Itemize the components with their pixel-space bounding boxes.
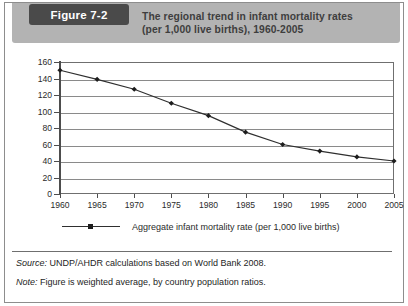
x-axis-label-1975: 1975 [151,200,191,210]
y-tick-60 [54,145,59,146]
y-axis-label-160: 160 [26,57,52,67]
data-point-1990 [280,142,285,147]
source-note: Source: UNDP/AHDR calculations based on … [16,258,396,268]
note-note: Note: Figure is weighted average, by cou… [16,277,396,287]
y-axis-label-100: 100 [26,107,52,117]
y-tick-160 [54,62,59,63]
y-axis-label-120: 120 [26,90,52,100]
data-point-1980 [206,113,211,118]
figure-card: Figure 7-2 The regional trend in infant … [0,0,408,306]
x-tick-1960 [60,194,61,198]
x-axis-label-1995: 1995 [300,200,340,210]
series-polyline [60,70,394,161]
y-tick-40 [54,161,59,162]
chart-legend: Aggregate infant mortality rate (per 1,0… [12,218,392,236]
figure-title-line-2: (per 1,000 live births), 1960-2005 [142,24,404,37]
y-tick-0 [54,194,59,195]
figure-header-band: Figure 7-2 The regional trend in infant … [12,3,400,43]
source-text: UNDP/AHDR calculations based on World Ba… [47,258,266,268]
y-axis-labels: 020406080100120140160 [20,52,52,204]
y-axis-label-0: 0 [26,189,52,199]
note-text: Figure is weighted average, by country p… [38,277,266,287]
x-axis-label-1965: 1965 [77,200,117,210]
y-axis-label-20: 20 [26,173,52,183]
legend-label: Aggregate infant mortality rate (per 1,0… [132,222,340,232]
data-point-1985 [243,130,248,135]
series-line-aggregate-infant-mortality-rate [60,62,394,194]
figure-number-label: Figure 7-2 [51,9,108,21]
x-axis-label-1970: 1970 [114,200,154,210]
y-tick-140 [54,79,59,80]
x-axis-label-1980: 1980 [188,200,228,210]
x-axis-label-1985: 1985 [226,200,266,210]
x-tick-1990 [283,194,284,198]
x-axis-label-2005: 2005 [374,200,408,210]
x-tick-1975 [171,194,172,198]
x-tick-1985 [246,194,247,198]
figure-title-line-1: The regional trend in infant mortality r… [142,11,404,24]
data-point-1970 [132,87,137,92]
x-axis-label-1960: 1960 [40,200,80,210]
y-tick-120 [54,95,59,96]
x-tick-2000 [357,194,358,198]
data-point-1965 [95,77,100,82]
x-tick-1995 [320,194,321,198]
legend-marker-icon [88,224,93,229]
data-point-2000 [354,154,359,159]
x-tick-1970 [134,194,135,198]
x-tick-1965 [97,194,98,198]
x-axis-label-2000: 2000 [337,200,377,210]
y-axis-label-80: 80 [26,123,52,133]
x-tick-2005 [394,194,395,198]
footer-divider [12,251,392,252]
x-axis-label-1990: 1990 [263,200,303,210]
figure-number-badge: Figure 7-2 [29,4,129,25]
legend-swatch-icon [62,222,120,232]
y-axis-label-60: 60 [26,140,52,150]
figure-title: The regional trend in infant mortality r… [142,11,404,36]
y-tick-80 [54,128,59,129]
source-label: Source: [16,258,47,268]
figure-footnotes: Source: UNDP/AHDR calculations based on … [16,258,396,296]
y-axis-label-140: 140 [26,74,52,84]
data-point-1975 [169,101,174,106]
y-axis-label-40: 40 [26,156,52,166]
y-tick-20 [54,178,59,179]
note-label: Note: [16,277,38,287]
y-tick-100 [54,112,59,113]
data-point-1995 [317,149,322,154]
chart-area: 020406080100120140160 196019651970197519… [12,52,392,212]
x-tick-1980 [208,194,209,198]
